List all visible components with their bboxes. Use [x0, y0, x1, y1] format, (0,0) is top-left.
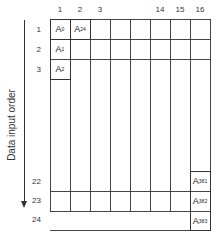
grid-hline [50, 211, 211, 212]
column-label-2: 2 [70, 5, 90, 14]
cell-a24: A24 [70, 19, 90, 39]
row-label-1: 1 [27, 25, 41, 34]
row-label-24: 24 [27, 215, 41, 224]
column-label-1: 1 [50, 5, 70, 14]
cell-a0: A0 [50, 19, 70, 39]
grid-vline [150, 19, 151, 211]
axis-label: Data input order [6, 89, 17, 161]
grid-vline [130, 19, 131, 211]
grid-vline [90, 19, 91, 211]
cell-a1: A1 [50, 39, 70, 59]
row-label-22: 22 [27, 177, 41, 186]
cell-a381: A381 [190, 171, 210, 191]
row-label-3: 3 [27, 65, 41, 74]
grid-vline [170, 19, 171, 211]
row-label-2: 2 [27, 45, 41, 54]
cell-a2: A2 [50, 59, 70, 79]
cell-a382: A382 [190, 191, 210, 211]
column-label-16: 16 [190, 5, 210, 14]
grid-hline [50, 191, 211, 192]
arrow-down-icon [21, 201, 27, 208]
column-label-14: 14 [150, 5, 170, 14]
cell-a383: A383 [190, 211, 210, 231]
grid-hline [50, 59, 211, 60]
grid-hline [50, 230, 211, 231]
row-label-23: 23 [27, 196, 41, 205]
column-label-3: 3 [90, 5, 110, 14]
input-order-axis-line [24, 20, 25, 203]
column-label-15: 15 [170, 5, 190, 14]
grid-vline [110, 19, 111, 211]
